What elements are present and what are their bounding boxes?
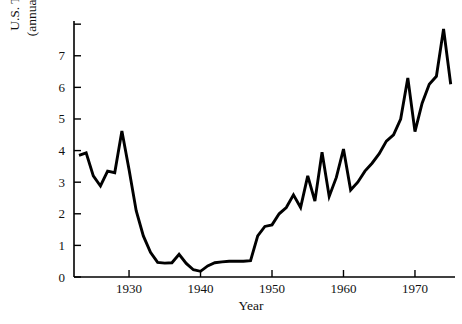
y-tick-label-1: 1 xyxy=(59,238,66,253)
x-tick-label-1930: 1930 xyxy=(116,281,142,296)
chart-axes xyxy=(74,21,455,277)
x-axis-label: Year xyxy=(0,298,462,314)
y-tick-label-6: 6 xyxy=(59,80,66,95)
chart-figure: 01234567 19301940195019601970 U.S. Treas… xyxy=(0,0,462,324)
x-tick-label-1940: 1940 xyxy=(188,281,214,296)
x-tick-label-1960: 1960 xyxy=(330,281,356,296)
y-axis-label-line1: U.S. Treasury Bill Rates xyxy=(6,0,23,50)
y-tick-label-2: 2 xyxy=(59,206,66,221)
y-axis-label: U.S. Treasury Bill Rates (annual percent… xyxy=(6,0,30,50)
x-tick-label-1970: 1970 xyxy=(402,281,428,296)
treasury-bill-rates-line-chart: 01234567 19301940195019601970 xyxy=(0,0,462,324)
y-tick-label-4: 4 xyxy=(59,143,66,158)
data-series-group xyxy=(79,29,451,271)
y-tick-label-5: 5 xyxy=(59,111,66,126)
y-tick-label-7: 7 xyxy=(59,48,66,63)
y-axis-label-line2: (annual percentage return) xyxy=(23,0,40,50)
y-tick-label-0: 0 xyxy=(59,270,66,285)
y-tick-label-3: 3 xyxy=(59,175,66,190)
series-line-treasury-bill-rates xyxy=(79,29,451,271)
y-axis-ticks: 01234567 xyxy=(59,24,82,284)
x-axis-label-text: Year xyxy=(199,298,264,313)
x-axis-ticks: 19301940195019601970 xyxy=(116,270,428,296)
x-tick-label-1950: 1950 xyxy=(259,281,285,296)
